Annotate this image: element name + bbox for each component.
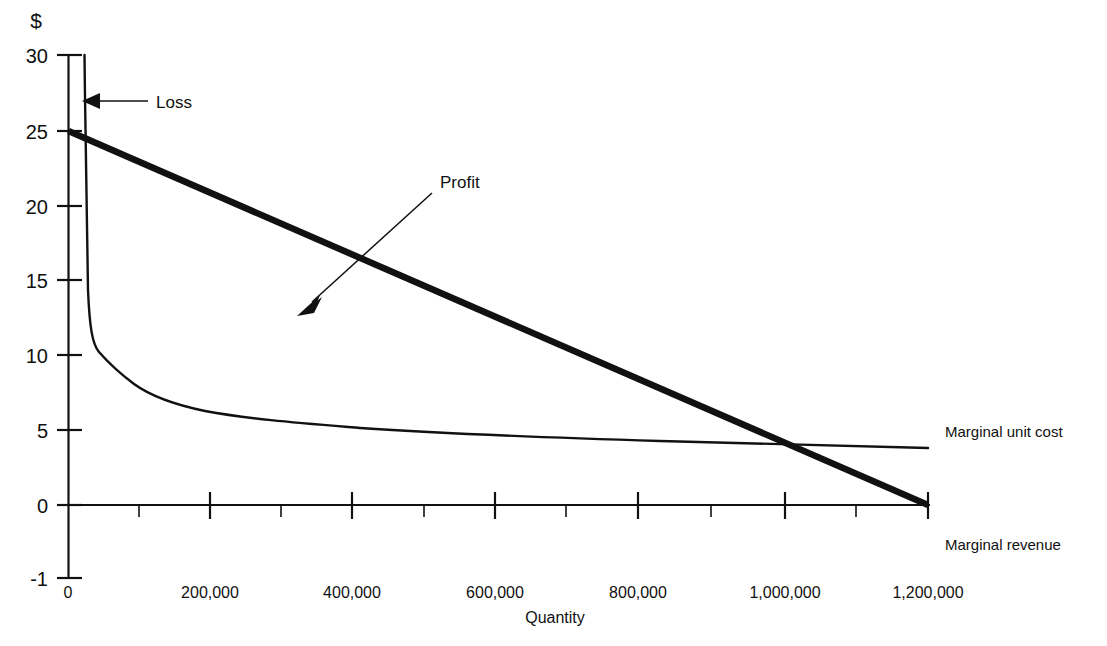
x-tick-label-1200000: 1,200,000 [892,584,963,601]
y-tick-labels: $ 30 25 20 15 10 5 0 -1 [26,9,48,590]
loss-annotation-label: Loss [156,93,192,112]
x-tick-label-600000: 600,000 [466,584,524,601]
y-tick-label-0: 0 [37,495,48,517]
profit-annotation-label: Profit [440,173,480,192]
x-tick-label-400000: 400,000 [323,584,381,601]
marginal-cost-revenue-chart: $ 30 25 20 15 10 5 0 -1 [0,0,1107,646]
y-tick-label-25: 25 [26,121,48,143]
marginal-revenue-line [69,131,929,505]
y-tick-label-20: 20 [26,196,48,218]
marginal-unit-cost-curve [85,55,929,448]
x-tick-label-200000: 200,000 [181,584,239,601]
loss-annotation: Loss [82,93,192,112]
x-tick-label-800000: 800,000 [609,584,667,601]
y-axis-unit-label: $ [30,9,42,32]
y-tick-label-neg1: -1 [30,568,48,590]
x-tick-label-0: 0 [64,584,73,601]
x-axis-title: Quantity [525,609,585,626]
y-tick-label-15: 15 [26,270,48,292]
y-tick-label-30: 30 [26,45,48,67]
series-label-marginal-revenue: Marginal revenue [945,536,1061,553]
x-tick-label-1000000: 1,000,000 [749,584,820,601]
x-tick-labels: 0 200,000 400,000 600,000 800,000 1,000,… [64,584,964,601]
series-label-marginal-unit-cost: Marginal unit cost [945,423,1063,440]
y-tick-label-5: 5 [37,420,48,442]
chart-figure: $ 30 25 20 15 10 5 0 -1 [0,0,1107,646]
y-tick-label-10: 10 [26,345,48,367]
